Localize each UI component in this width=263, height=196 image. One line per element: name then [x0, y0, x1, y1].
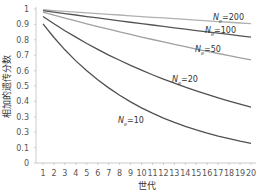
- y-tick-label: 0.1: [16, 144, 29, 153]
- x-tick-label: 7: [106, 169, 111, 178]
- series-line-ne-10: [43, 24, 251, 143]
- x-tick-label: 5: [84, 169, 89, 178]
- y-tick-label: 0.3: [16, 128, 29, 137]
- y-tick-label: 0.3: [16, 113, 29, 122]
- x-tick-label: 16: [202, 169, 212, 178]
- series-label: Ne=50: [195, 45, 221, 56]
- y-tick-label: 0.8: [16, 36, 29, 45]
- x-tick-label: 18: [224, 169, 234, 178]
- x-tick-label: 1: [40, 169, 45, 178]
- x-tick-label: 8: [117, 169, 122, 178]
- series-labels: Ne=200Ne=100Ne=50Ne=20Ne=10: [118, 13, 244, 127]
- y-tick-label: 0.9: [16, 20, 29, 29]
- x-tick-label: 10: [136, 169, 146, 178]
- x-tick-label: 19: [235, 169, 245, 178]
- x-tick-label: 4: [73, 169, 78, 178]
- x-tick-label: 12: [158, 169, 168, 178]
- series-label: Ne=10: [118, 116, 144, 127]
- x-tick-label: 20: [246, 169, 256, 178]
- x-tick-label: 14: [180, 169, 190, 178]
- line-chart: 00.10.30.30.40.50.60.70.80.9112345678910…: [0, 0, 263, 196]
- x-axis-label: 世代: [138, 180, 156, 191]
- x-tick-label: 17: [213, 169, 223, 178]
- x-tick-label: 2: [51, 169, 56, 178]
- y-axis-label: 相加的遗传分数: [1, 55, 12, 118]
- x-tick-label: 6: [95, 169, 100, 178]
- y-tick-label: 1: [24, 5, 29, 14]
- x-tick-label: 3: [62, 169, 67, 178]
- y-tick-label: 0.6: [16, 67, 29, 76]
- y-tick-label: 0.7: [16, 51, 29, 60]
- x-tick-label: 9: [128, 169, 133, 178]
- y-tick-label: 0: [24, 159, 29, 168]
- x-tick-label: 11: [147, 169, 157, 178]
- y-tick-label: 0.4: [16, 97, 29, 106]
- x-tick-label: 15: [191, 169, 201, 178]
- x-tick-label: 13: [169, 169, 179, 178]
- y-tick-label: 0.5: [16, 82, 29, 91]
